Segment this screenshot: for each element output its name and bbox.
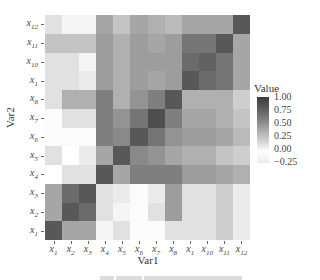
heatmap-cell [199, 165, 216, 184]
heatmap-cell [62, 165, 79, 184]
heatmap-cell [216, 184, 233, 203]
heatmap-grid [45, 15, 250, 240]
heatmap-cell [233, 146, 250, 165]
legend-label: 0.25 [274, 130, 292, 141]
heatmap-cell [113, 221, 130, 240]
heatmap-cell [165, 146, 182, 165]
heatmap-cell [199, 90, 216, 109]
heatmap-cell [45, 34, 62, 53]
heatmap-cell [45, 71, 62, 90]
heatmap-cell [165, 165, 182, 184]
heatmap-cell [96, 221, 113, 240]
heatmap-cell [62, 203, 79, 222]
heatmap-cell [165, 203, 182, 222]
y-tick-mark [41, 99, 44, 100]
x-tick-mark [105, 241, 106, 244]
heatmap-cell [182, 90, 199, 109]
heatmap-cell [113, 146, 130, 165]
legend-label: 0.75 [274, 104, 292, 115]
heatmap-cell [182, 146, 199, 165]
x-tick-mark [122, 241, 123, 244]
heatmap-cell [148, 221, 165, 240]
heatmap-cell [113, 15, 130, 34]
heatmap-cell [96, 109, 113, 128]
heatmap-cell [233, 184, 250, 203]
heatmap-cell [79, 221, 96, 240]
x-tick-label: x8 [169, 243, 177, 257]
y-tick-mark [41, 81, 44, 82]
heatmap-cell [148, 128, 165, 147]
heatmap-cell [130, 165, 147, 184]
x-tick-mark [88, 241, 89, 244]
heatmap-cell [45, 15, 62, 34]
heatmap-cell [148, 90, 165, 109]
heatmap-cell [79, 34, 96, 53]
heatmap-cell [182, 53, 199, 72]
heatmap-cell [165, 90, 182, 109]
heatmap-cell [182, 34, 199, 53]
x-tick-mark [139, 241, 140, 244]
heatmap-cell [165, 15, 182, 34]
heatmap-cell [233, 128, 250, 147]
heatmap-cell [216, 90, 233, 109]
heatmap-cell [130, 34, 147, 53]
heatmap-cell [148, 146, 165, 165]
heatmap-cell [233, 165, 250, 184]
heatmap-cell [62, 15, 79, 34]
y-tick-label: x8 [30, 92, 38, 106]
heatmap-cell [96, 34, 113, 53]
heatmap-cell [62, 71, 79, 90]
heatmap-cell [62, 128, 79, 147]
x-tick-mark [71, 241, 72, 244]
heatmap-cell [165, 184, 182, 203]
heatmap-cell [233, 71, 250, 90]
legend-label: −0.25 [274, 156, 297, 167]
heatmap-cell [165, 34, 182, 53]
legend-label: 0.00 [274, 143, 292, 154]
x-tick-mark [241, 241, 242, 244]
heatmap-cell [79, 165, 96, 184]
x-tick-label: x1 [50, 243, 58, 257]
heatmap-cell [199, 184, 216, 203]
y-tick-label: x5 [30, 149, 38, 163]
heatmap-cell [45, 109, 62, 128]
heatmap-cell [233, 34, 250, 53]
heatmap-cell [130, 203, 147, 222]
heatmap-cell [96, 203, 113, 222]
heatmap-cell [216, 128, 233, 147]
heatmap-cell [130, 90, 147, 109]
heatmap-cell [130, 184, 147, 203]
x-tick-mark [156, 241, 157, 244]
y-tick-label: x7 [30, 111, 38, 125]
legend-label: 0.50 [274, 117, 292, 128]
heatmap-cell [216, 71, 233, 90]
heatmap-cell [216, 146, 233, 165]
heatmap-cell [113, 34, 130, 53]
y-tick-label: x3 [30, 186, 38, 200]
heatmap-cell [216, 203, 233, 222]
heatmap-cell [148, 109, 165, 128]
y-tick-mark [41, 137, 44, 138]
heatmap-cell [79, 71, 96, 90]
x-tick-label: x11 [219, 243, 230, 257]
heatmap-cell [96, 90, 113, 109]
heatmap-cell [233, 90, 250, 109]
heatmap-cell [182, 184, 199, 203]
heatmap-cell [148, 34, 165, 53]
x-tick-label: x12 [236, 243, 247, 257]
heatmap-cell [62, 146, 79, 165]
heatmap-cell [182, 165, 199, 184]
heatmap-cell [113, 128, 130, 147]
heatmap-cell [216, 221, 233, 240]
heatmap-cell [79, 53, 96, 72]
heatmap-cell [165, 53, 182, 72]
heatmap-cell [45, 146, 62, 165]
heatmap-cell [233, 203, 250, 222]
heatmap-cell [199, 203, 216, 222]
x-tick-mark [190, 241, 191, 244]
heatmap-cell [79, 15, 96, 34]
heatmap-cell [96, 53, 113, 72]
heatmap-cell [130, 15, 147, 34]
heatmap-cell [130, 109, 147, 128]
heatmap-cell [148, 71, 165, 90]
